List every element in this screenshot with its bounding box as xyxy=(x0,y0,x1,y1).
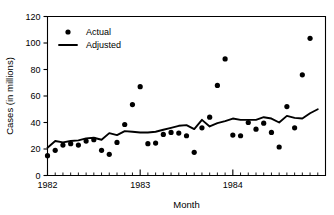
data-point-actual xyxy=(145,141,150,146)
data-point-actual xyxy=(176,131,181,136)
scatter-chart-canvas: 020406080100120198219831984ActualAdjuste… xyxy=(0,0,334,215)
data-point-actual xyxy=(99,148,104,153)
data-point-actual xyxy=(68,141,73,146)
data-point-actual xyxy=(184,133,189,138)
data-point-actual xyxy=(261,121,266,126)
data-point-actual xyxy=(277,144,282,149)
data-point-actual xyxy=(246,120,251,125)
data-point-actual xyxy=(91,137,96,142)
x-tick-label-1983: 1983 xyxy=(130,180,150,190)
legend-marker-actual xyxy=(65,29,70,34)
data-point-actual xyxy=(107,152,112,157)
y-tick-label-120: 120 xyxy=(25,12,40,22)
data-point-actual xyxy=(192,150,197,155)
y-tick-label-60: 60 xyxy=(30,91,40,101)
data-point-actual xyxy=(76,142,81,147)
data-point-actual xyxy=(223,56,228,61)
data-point-actual xyxy=(292,125,297,130)
x-axis-title: Month xyxy=(173,199,199,210)
data-point-actual xyxy=(130,102,135,107)
y-tick-label-100: 100 xyxy=(25,38,40,48)
y-tick-label-20: 20 xyxy=(30,144,40,154)
data-point-actual xyxy=(114,140,119,145)
x-tick-label-1982: 1982 xyxy=(37,180,57,190)
chart-figure: 020406080100120198219831984ActualAdjuste… xyxy=(0,0,334,215)
data-point-actual xyxy=(284,104,289,109)
data-point-actual xyxy=(53,148,58,153)
data-point-actual xyxy=(253,127,258,132)
data-point-actual xyxy=(84,138,89,143)
data-point-actual xyxy=(199,125,204,130)
y-tick-label-80: 80 xyxy=(30,65,40,75)
y-axis-title: Cases (in millions) xyxy=(4,57,15,135)
legend-label-actual: Actual xyxy=(86,27,111,37)
data-point-actual xyxy=(230,132,235,137)
data-point-actual xyxy=(238,133,243,138)
data-point-actual xyxy=(122,122,127,127)
data-point-actual xyxy=(60,142,65,147)
data-point-actual xyxy=(215,83,220,88)
data-point-actual xyxy=(168,130,173,135)
data-point-actual xyxy=(207,115,212,120)
x-tick-label-1984: 1984 xyxy=(223,180,243,190)
data-point-actual xyxy=(307,36,312,41)
data-point-actual xyxy=(269,130,274,135)
data-point-actual xyxy=(300,72,305,77)
y-tick-label-40: 40 xyxy=(30,118,40,128)
data-point-actual xyxy=(138,84,143,89)
data-point-actual xyxy=(45,153,50,158)
data-point-actual xyxy=(153,140,158,145)
data-point-actual xyxy=(161,132,166,137)
legend-label-adjusted: Adjusted xyxy=(86,40,121,50)
